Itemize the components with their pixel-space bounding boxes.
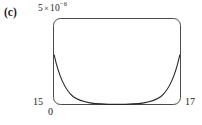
data-curve	[54, 55, 180, 104]
plot-canvas	[0, 0, 202, 125]
figure-panel: (c) 5×10−6 15 0 17	[0, 0, 202, 125]
plot-frame	[54, 19, 181, 105]
